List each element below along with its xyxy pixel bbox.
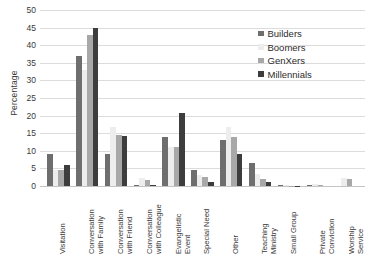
bar [179, 113, 185, 186]
gridline [40, 186, 365, 187]
x-tick-label: WorshipService [347, 190, 365, 254]
legend-item-builders[interactable]: Builders [258, 28, 312, 39]
x-label-cell: TeachingMinistry [246, 188, 275, 254]
y-tick-label: 25 [12, 93, 36, 103]
x-label-cell: PrivateConviction [303, 188, 332, 254]
x-label-cell: WorshipService [332, 188, 361, 254]
bar [64, 165, 70, 186]
bar-chart: Percentage 05101520253035404550 Visitati… [0, 0, 375, 255]
bar-group [159, 10, 188, 186]
legend-label: Millennials [268, 69, 312, 80]
legend-label: Boomers [268, 42, 306, 53]
y-tick-label: 10 [12, 146, 36, 156]
legend-item-millennials[interactable]: Millennials [258, 69, 312, 80]
y-tick-label: 30 [12, 75, 36, 85]
x-tick-label: Visitation [58, 190, 67, 254]
y-tick-label: 0 [12, 181, 36, 191]
legend-swatch-icon [258, 58, 264, 64]
x-label-cell: Special Need [188, 188, 217, 254]
legend-swatch-icon [258, 31, 264, 37]
bar-group [73, 10, 102, 186]
y-tick-label: 5 [12, 163, 36, 173]
y-tick-label: 40 [12, 40, 36, 50]
bar [237, 154, 243, 186]
bar [150, 185, 156, 186]
x-label-cell: Conversationwith Friend [102, 188, 131, 254]
bar-groups [40, 10, 365, 186]
x-label-cell: Other [217, 188, 246, 254]
legend-label: Builders [268, 28, 302, 39]
x-label-cell: Visitation [44, 188, 73, 254]
bar [93, 28, 99, 186]
bar [318, 185, 324, 186]
bar-group [217, 10, 246, 186]
legend-label: GenXers [268, 55, 306, 66]
x-label-cell: Conversationwith Family [73, 188, 102, 254]
bar [347, 179, 353, 186]
legend-item-genxers[interactable]: GenXers [258, 55, 312, 66]
bar-group [44, 10, 73, 186]
x-label-cell: EvangelisticEvent [159, 188, 188, 254]
legend-swatch-icon [258, 71, 264, 77]
y-tick-label: 20 [12, 111, 36, 121]
bar-group [130, 10, 159, 186]
y-tick-label: 50 [12, 5, 36, 15]
bar [122, 136, 128, 186]
bar-group [102, 10, 131, 186]
x-label-cell: Small Group [275, 188, 304, 254]
bar-group [332, 10, 361, 186]
x-tick-label: Special Need [202, 190, 211, 254]
legend-swatch-icon [258, 44, 264, 50]
y-tick-label: 15 [12, 128, 36, 138]
plot-area: 05101520253035404550 [40, 10, 365, 186]
y-tick-label: 35 [12, 58, 36, 68]
x-tick-label: Other [231, 190, 240, 254]
bar-group [188, 10, 217, 186]
bar [208, 182, 214, 186]
x-tick-label: Small Group [289, 190, 298, 254]
legend: BuildersBoomersGenXersMillennials [258, 28, 312, 80]
legend-item-boomers[interactable]: Boomers [258, 42, 312, 53]
x-label-cell: Conversationwith Colleague [130, 188, 159, 254]
bar [266, 182, 272, 186]
y-tick-label: 45 [12, 23, 36, 33]
x-axis-labels: VisitationConversationwith FamilyConvers… [40, 188, 365, 254]
